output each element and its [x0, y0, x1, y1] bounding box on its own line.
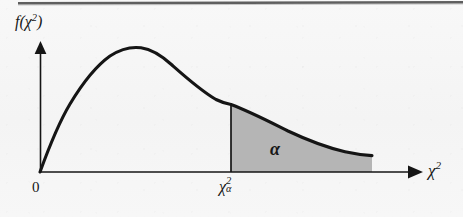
chi-square-figure: f(χ2) χ2 0 χ2α α: [0, 0, 463, 217]
alpha-area-label: α: [270, 140, 280, 158]
chi-square-plot: [0, 0, 463, 217]
x-axis-arrowhead: [408, 166, 423, 179]
y-axis-arrowhead: [35, 41, 47, 54]
x-axis-label-superscript: 2: [435, 159, 441, 171]
critical-value-tick-label: χ2α: [219, 179, 226, 195]
y-axis-label-paren: ): [37, 13, 42, 30]
critical-value-subscript: α: [226, 184, 231, 194]
critical-value-stack: χ2α: [219, 179, 226, 195]
origin-label: 0: [32, 180, 40, 195]
critical-value-base: χ: [219, 178, 226, 195]
x-axis-label: χ2: [428, 160, 441, 179]
y-axis-label: f(χ2): [15, 13, 42, 30]
y-axis-label-base: f(χ: [15, 13, 32, 30]
page-rule-artifact: [18, 2, 463, 3]
